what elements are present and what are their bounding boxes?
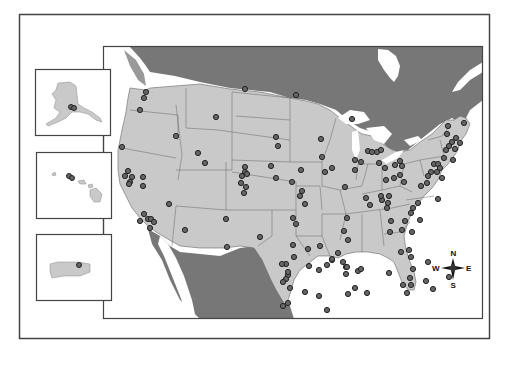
site-marker[interactable] [213,114,218,119]
site-marker[interactable] [423,278,428,283]
site-marker[interactable] [407,275,412,280]
site-marker[interactable] [457,140,462,145]
site-marker[interactable] [151,219,156,224]
site-marker[interactable] [223,216,228,221]
site-marker[interactable] [239,173,244,178]
site-marker[interactable] [344,264,349,269]
site-marker[interactable] [275,143,280,148]
site-marker[interactable] [430,286,435,291]
site-marker[interactable] [302,201,307,206]
site-marker[interactable] [202,160,207,165]
site-marker[interactable] [182,227,187,232]
site-marker[interactable] [129,174,134,179]
site-marker[interactable] [397,172,402,177]
site-marker[interactable] [273,175,278,180]
site-marker[interactable] [439,175,444,180]
site-marker[interactable] [461,120,466,125]
site-marker[interactable] [140,183,145,188]
site-marker[interactable] [397,158,402,163]
site-marker[interactable] [319,154,324,159]
site-marker[interactable] [392,162,397,167]
site-marker[interactable] [137,218,142,223]
site-marker[interactable] [417,217,422,222]
site-marker[interactable] [329,256,334,261]
site-marker[interactable] [367,202,372,207]
site-marker[interactable] [195,150,200,155]
site-marker[interactable] [452,146,457,151]
site-marker[interactable] [382,165,387,170]
site-marker[interactable] [349,116,354,121]
site-marker[interactable] [386,193,391,198]
site-marker[interactable] [408,254,413,259]
site-marker[interactable] [400,282,405,287]
site-marker[interactable] [406,247,411,252]
site-marker[interactable] [317,243,322,248]
site-marker[interactable] [291,254,296,259]
site-marker[interactable] [280,303,285,308]
site-marker[interactable] [243,184,248,189]
site-marker[interactable] [388,218,393,223]
site-marker[interactable] [399,227,404,232]
site-marker[interactable] [444,131,449,136]
site-marker[interactable] [383,177,388,182]
site-marker[interactable] [289,179,294,184]
site-marker[interactable] [358,266,363,271]
site-marker[interactable] [268,163,273,168]
site-marker[interactable] [402,218,407,223]
site-marker[interactable] [342,184,347,189]
site-marker[interactable] [352,167,357,172]
site-marker[interactable] [441,155,446,160]
site-marker[interactable] [345,237,350,242]
marker-hawaii-2[interactable] [70,176,75,181]
site-marker[interactable] [238,180,243,185]
site-marker[interactable] [437,165,442,170]
site-marker[interactable] [316,267,321,272]
site-marker[interactable] [305,246,310,251]
site-marker[interactable] [364,290,369,295]
site-marker[interactable] [290,215,295,220]
site-marker[interactable] [410,205,415,210]
site-marker[interactable] [398,249,403,254]
site-marker[interactable] [384,205,389,210]
site-marker[interactable] [141,211,146,216]
site-marker[interactable] [324,307,329,312]
site-marker[interactable] [166,201,171,206]
site-marker[interactable] [306,263,311,268]
site-marker[interactable] [287,285,292,290]
site-marker[interactable] [425,259,430,264]
site-marker[interactable] [343,271,348,276]
site-marker[interactable] [428,169,433,174]
site-marker[interactable] [318,136,323,141]
site-marker[interactable] [424,180,429,185]
site-marker[interactable] [273,134,278,139]
site-marker[interactable] [293,221,298,226]
site-marker[interactable] [446,274,451,279]
site-marker[interactable] [141,95,146,100]
site-marker[interactable] [386,270,391,275]
site-marker[interactable] [143,89,148,94]
site-marker[interactable] [385,200,390,205]
site-marker[interactable] [340,259,345,264]
site-marker[interactable] [224,244,229,249]
site-marker[interactable] [399,163,404,168]
site-marker[interactable] [126,181,131,186]
site-marker[interactable] [329,165,334,170]
site-marker[interactable] [257,234,262,239]
site-marker[interactable] [344,215,349,220]
site-marker[interactable] [378,147,383,152]
site-marker[interactable] [298,167,303,172]
site-marker[interactable] [341,228,346,233]
site-marker[interactable] [363,195,368,200]
site-marker[interactable] [418,183,423,188]
site-marker[interactable] [408,210,413,215]
site-marker[interactable] [415,200,420,205]
site-marker[interactable] [293,92,298,97]
site-marker[interactable] [369,149,374,154]
site-marker[interactable] [316,293,321,298]
site-marker[interactable] [409,229,414,234]
site-marker[interactable] [297,193,302,198]
site-marker[interactable] [290,242,295,247]
site-marker[interactable] [322,169,327,174]
site-marker[interactable] [378,193,383,198]
site-marker[interactable] [324,262,329,267]
